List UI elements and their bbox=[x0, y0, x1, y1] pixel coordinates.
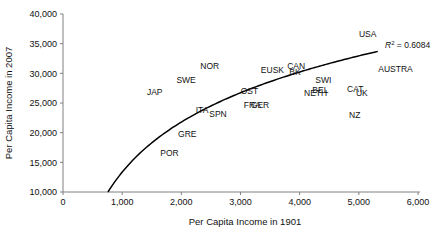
x-tick-label: 3,000 bbox=[229, 197, 252, 207]
data-point-labels: PORGREITASPNJAPSWENORFRAGEROSTEUSKCANBKS… bbox=[147, 29, 413, 158]
r-squared-annotation: R2 = 0.6084 bbox=[385, 40, 430, 50]
x-axis-title: Per Capita Income in 1901 bbox=[189, 216, 301, 227]
data-point-label-jap: JAP bbox=[147, 87, 163, 97]
data-point-label-swi: SWI bbox=[315, 75, 331, 85]
data-point-label-nor: NOR bbox=[200, 61, 219, 71]
x-tick-label: 6,000 bbox=[407, 197, 430, 207]
y-tick-label: 15,000 bbox=[29, 158, 57, 168]
y-tick-label: 20,000 bbox=[29, 128, 57, 138]
y-axis-title: Per Capita Income in 2007 bbox=[3, 47, 14, 159]
trendline bbox=[108, 51, 378, 192]
y-tick-label: 25,000 bbox=[29, 98, 57, 108]
data-point-label-austra: AUSTRA bbox=[378, 64, 413, 74]
x-axis-ticks: 01,0002,0003,0004,0005,0006,000 bbox=[60, 192, 429, 207]
x-tick-label: 0 bbox=[60, 197, 65, 207]
data-point-label-usa: USA bbox=[359, 29, 377, 39]
x-tick-label: 4,000 bbox=[288, 197, 311, 207]
x-tick-label: 1,000 bbox=[111, 197, 134, 207]
data-point-label-neth: NETH bbox=[304, 88, 327, 98]
data-point-label-eusk: EUSK bbox=[261, 65, 284, 75]
data-point-label-ost: OST bbox=[241, 86, 258, 96]
data-point-label-ger: GER bbox=[251, 100, 269, 110]
plot-axes bbox=[63, 14, 420, 192]
r2-value: = 0.6084 bbox=[394, 40, 430, 50]
data-point-label-nz: NZ bbox=[349, 110, 360, 120]
data-point-label-spn: SPN bbox=[209, 109, 226, 119]
x-tick-label: 2,000 bbox=[170, 197, 193, 207]
y-tick-label: 35,000 bbox=[29, 39, 57, 49]
data-point-label-bk: BK bbox=[289, 67, 301, 77]
data-point-label-uk: UK bbox=[356, 88, 368, 98]
data-point-label-ita: ITA bbox=[196, 105, 209, 115]
y-tick-label: 40,000 bbox=[29, 9, 57, 19]
data-point-label-por: POR bbox=[160, 148, 178, 158]
scatter-chart: 10,00015,00020,00025,00030,00035,00040,0… bbox=[0, 0, 441, 232]
y-tick-label: 30,000 bbox=[29, 69, 57, 79]
data-point-label-swe: SWE bbox=[176, 75, 196, 85]
y-tick-label: 10,000 bbox=[29, 187, 57, 197]
data-point-label-gre: GRE bbox=[178, 129, 197, 139]
x-tick-label: 5,000 bbox=[348, 197, 371, 207]
y-axis-ticks: 10,00015,00020,00025,00030,00035,00040,0… bbox=[29, 9, 63, 197]
